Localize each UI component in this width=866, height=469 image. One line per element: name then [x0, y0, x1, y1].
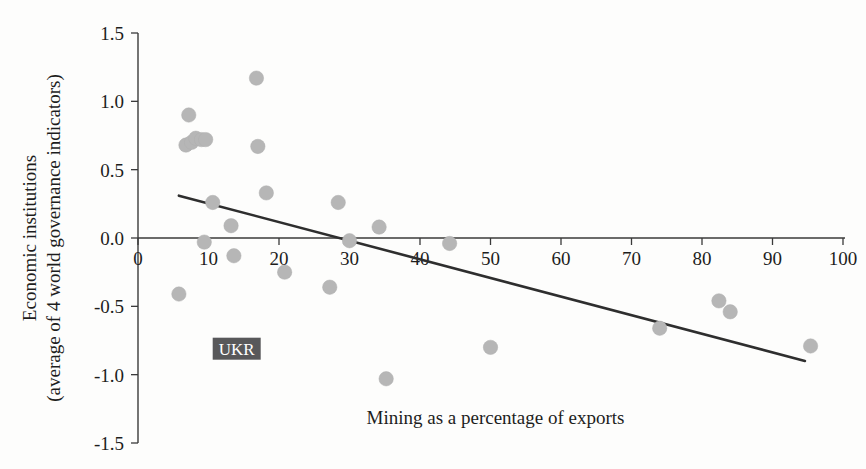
data-point	[712, 294, 726, 308]
trend-line	[179, 196, 805, 361]
data-point	[331, 195, 345, 209]
y-tick-label: 1.5	[100, 23, 124, 44]
plot-canvas: 0102030405060708090100 -1.5-1.0-0.50.00.…	[0, 0, 866, 469]
data-point	[198, 132, 212, 146]
data-point	[206, 195, 220, 209]
y-tick-label: -1.0	[94, 365, 124, 386]
data-point	[379, 372, 393, 386]
data-point	[342, 234, 356, 248]
data-point	[323, 280, 337, 294]
y-tick-label: 1.0	[100, 91, 124, 112]
y-tick-label: -1.5	[94, 433, 124, 454]
data-point	[653, 321, 667, 335]
axes	[138, 33, 845, 443]
ukr-label-text: UKR	[219, 340, 256, 359]
x-tick-label: 60	[552, 248, 571, 269]
data-point	[483, 340, 497, 354]
data-point	[227, 249, 241, 263]
y-axis-tick-labels: -1.5-1.0-0.50.00.51.01.5	[94, 23, 124, 454]
data-point	[172, 287, 186, 301]
data-point	[249, 71, 263, 85]
data-point	[803, 339, 817, 353]
x-tick-label: 70	[622, 248, 641, 269]
data-point	[277, 265, 291, 279]
x-tick-label: 100	[829, 248, 858, 269]
y-tick-label: 0.5	[100, 160, 124, 181]
data-point	[372, 220, 386, 234]
x-axis-title: Mining as a percentage of exports	[367, 407, 625, 428]
x-tick-label: 90	[763, 248, 782, 269]
data-point	[251, 139, 265, 153]
data-point	[224, 219, 238, 233]
data-point	[259, 186, 273, 200]
x-axis-tick-labels: 0102030405060708090100	[133, 248, 857, 269]
y-tick-label: -0.5	[94, 296, 124, 317]
data-point	[182, 108, 196, 122]
data-point	[723, 305, 737, 319]
y-axis-title-line1: Economic institutions	[19, 155, 40, 321]
x-tick-label: 0	[133, 248, 143, 269]
data-point	[197, 235, 211, 249]
x-tick-label: 10	[199, 248, 218, 269]
y-tick-label: 0.0	[100, 228, 124, 249]
data-point	[442, 236, 456, 250]
regression-line	[179, 196, 805, 361]
x-tick-label: 80	[693, 248, 712, 269]
x-tick-label: 50	[481, 248, 500, 269]
scatter-chart-figure: 0102030405060708090100 -1.5-1.0-0.50.00.…	[0, 0, 866, 469]
x-tick-label: 30	[340, 248, 359, 269]
y-axis-title-line2: (average of 4 world governance indicator…	[43, 74, 65, 402]
point-annotations: UKR	[213, 338, 261, 360]
